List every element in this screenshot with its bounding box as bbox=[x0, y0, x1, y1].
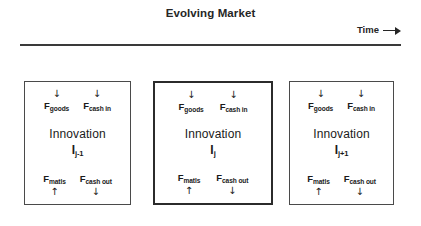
innovation-word: Innovation bbox=[49, 128, 105, 142]
flow-symbol-goods: F bbox=[44, 100, 50, 111]
flow-label-matls: Fmatls bbox=[307, 174, 330, 184]
innovation-index: Ij bbox=[210, 144, 215, 158]
flow-subscript-cash-in: cash in bbox=[89, 105, 111, 112]
down-arrow-icon: ↓ bbox=[357, 89, 365, 99]
flow-port-cash-in: ↓ Fcash in bbox=[83, 89, 111, 111]
flow-port-matls-out: Fmatls ↑ bbox=[43, 174, 66, 197]
flow-port-cash-in: ↓ Fcash in bbox=[220, 90, 248, 112]
inflow-row: ↓ Fgoods ↓ Fcash in bbox=[25, 89, 130, 111]
flow-subscript-cash-out: cash out bbox=[222, 177, 248, 184]
time-axis: Time bbox=[20, 24, 401, 48]
down-arrow-icon: ↓ bbox=[92, 187, 100, 197]
flow-label-cash-out: Fcash out bbox=[344, 174, 376, 184]
innovation-word: Innovation bbox=[185, 128, 241, 142]
flow-subscript-matls: matls bbox=[49, 178, 66, 185]
innovation-core-curr: Innovation Ij bbox=[185, 112, 241, 174]
flow-port-cash-out: Fcash out ↓ bbox=[80, 174, 112, 197]
down-arrow-icon: ↓ bbox=[187, 90, 195, 100]
down-arrow-icon: ↓ bbox=[228, 186, 236, 196]
up-arrow-icon: ↑ bbox=[314, 187, 322, 197]
innovation-index-subscript: j-1 bbox=[75, 149, 83, 158]
innovation-core-next: Innovation Ij+1 bbox=[313, 111, 369, 175]
flow-subscript-cash-in: cash in bbox=[225, 106, 247, 113]
flow-port-matls-out: Fmatls ↑ bbox=[178, 173, 201, 196]
flow-label-cash-in: Fcash in bbox=[220, 102, 248, 112]
down-arrow-icon: ↓ bbox=[316, 89, 324, 99]
page-title: Evolving Market bbox=[0, 7, 421, 19]
flow-port-cash-out: Fcash out ↓ bbox=[344, 174, 376, 197]
flow-port-cash-out: Fcash out ↓ bbox=[216, 173, 248, 196]
flow-label-goods: Fgoods bbox=[308, 101, 333, 111]
down-arrow-icon: ↓ bbox=[229, 90, 237, 100]
flow-symbol-cash-out: F bbox=[80, 173, 86, 184]
innovation-index-subscript: j+1 bbox=[338, 149, 348, 158]
innovation-box-prev: ↓ Fgoods ↓ Fcash in Innovation Ij-1 Fmat… bbox=[24, 81, 131, 205]
flow-label-matls: Fmatls bbox=[43, 174, 66, 184]
flow-subscript-matls: matls bbox=[183, 177, 200, 184]
down-arrow-icon: ↓ bbox=[93, 89, 101, 99]
flow-label-matls: Fmatls bbox=[178, 173, 201, 183]
flow-label-goods: Fgoods bbox=[44, 101, 69, 111]
innovation-box-next: ↓ Fgoods ↓ Fcash in Innovation Ij+1 Fmat… bbox=[289, 81, 394, 205]
up-arrow-icon: ↑ bbox=[185, 186, 193, 196]
innovation-index: Ij-1 bbox=[72, 144, 84, 158]
down-arrow-icon: ↓ bbox=[52, 89, 60, 99]
outflow-row: Fmatls ↑ Fcash out ↓ bbox=[25, 174, 130, 197]
time-axis-line bbox=[20, 44, 401, 46]
flow-subscript-cash-in: cash in bbox=[353, 105, 375, 112]
flow-symbol-goods: F bbox=[308, 100, 314, 111]
innovation-box-curr: ↓ Fgoods ↓ Fcash in Innovation Ij Fmatls… bbox=[153, 81, 273, 205]
flow-label-cash-in: Fcash in bbox=[83, 101, 111, 111]
time-axis-label: Time bbox=[357, 24, 379, 35]
flow-label-cash-out: Fcash out bbox=[80, 174, 112, 184]
inflow-row: ↓ Fgoods ↓ Fcash in bbox=[155, 90, 271, 112]
flow-label-goods: Fgoods bbox=[179, 102, 204, 112]
flow-subscript-cash-out: cash out bbox=[86, 178, 112, 185]
flow-subscript-goods: goods bbox=[314, 105, 333, 112]
flow-port-goods-in: ↓ Fgoods bbox=[179, 90, 204, 112]
innovation-word: Innovation bbox=[313, 128, 369, 142]
outflow-row: Fmatls ↑ Fcash out ↓ bbox=[155, 173, 271, 196]
flow-port-cash-in: ↓ Fcash in bbox=[347, 89, 375, 111]
flow-subscript-goods: goods bbox=[50, 105, 69, 112]
right-arrow-icon bbox=[383, 25, 401, 36]
flow-symbol-cash-out: F bbox=[344, 173, 350, 184]
down-arrow-icon: ↓ bbox=[356, 187, 364, 197]
flow-label-cash-out: Fcash out bbox=[216, 173, 248, 183]
flow-subscript-cash-out: cash out bbox=[350, 178, 376, 185]
outflow-row: Fmatls ↑ Fcash out ↓ bbox=[290, 174, 393, 197]
up-arrow-icon: ↑ bbox=[50, 187, 58, 197]
inflow-row: ↓ Fgoods ↓ Fcash in bbox=[290, 89, 393, 111]
flow-port-matls-out: Fmatls ↑ bbox=[307, 174, 330, 197]
flow-port-goods-in: ↓ Fgoods bbox=[44, 89, 69, 111]
innovation-core-prev: Innovation Ij-1 bbox=[49, 111, 105, 175]
flow-subscript-matls: matls bbox=[313, 178, 330, 185]
flow-label-cash-in: Fcash in bbox=[347, 101, 375, 111]
innovation-index: Ij+1 bbox=[335, 144, 349, 158]
flow-port-goods-in: ↓ Fgoods bbox=[308, 89, 333, 111]
innovation-index-subscript: j bbox=[214, 149, 216, 158]
flow-subscript-goods: goods bbox=[184, 106, 203, 113]
